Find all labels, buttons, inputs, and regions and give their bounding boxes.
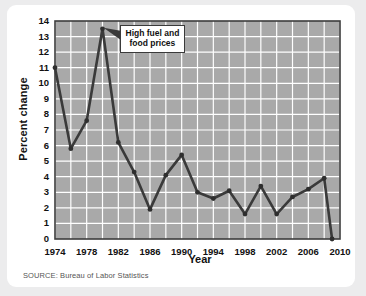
chart-figure: Percent change Year SOURCE: Bureau of La… <box>7 5 355 287</box>
data-point-marker <box>306 187 311 192</box>
data-point-marker <box>243 212 248 217</box>
data-point-marker <box>84 118 89 123</box>
annotation-line-1: High fuel and <box>126 28 180 38</box>
data-point-marker <box>53 65 58 70</box>
data-point-marker <box>163 173 168 178</box>
annotation-line-2: food prices <box>130 38 176 48</box>
data-point-marker <box>274 212 279 217</box>
data-point-marker <box>116 140 121 145</box>
data-point-marker <box>68 146 73 151</box>
data-point-marker <box>290 195 295 200</box>
data-point-marker <box>258 184 263 189</box>
data-point-marker <box>322 176 327 181</box>
data-point-marker <box>211 196 216 201</box>
data-point-marker <box>330 237 335 242</box>
data-point-marker <box>179 153 184 158</box>
data-point-marker <box>195 190 200 195</box>
chart-card: Percent change Year SOURCE: Bureau of La… <box>7 5 355 287</box>
annotation-callout: High fuel and food prices <box>120 25 186 53</box>
data-point-marker <box>100 26 105 31</box>
data-point-marker <box>227 188 232 193</box>
data-point-marker <box>132 170 137 175</box>
data-point-marker <box>148 207 153 212</box>
